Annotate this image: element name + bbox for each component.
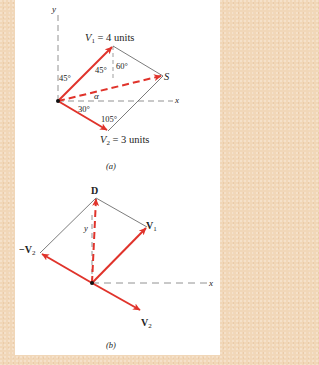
angle-45-from-y: 45°	[59, 73, 71, 83]
s-label: S	[164, 71, 170, 82]
v2-label-a: V2 = 3 units	[100, 134, 149, 147]
y-axis-label-b: y	[83, 223, 88, 233]
vector-s-resultant	[58, 76, 161, 101]
y-axis-label-a: y	[51, 4, 56, 14]
v1-label-a: V1 = 4 units	[85, 32, 134, 45]
neg-v2-label: −V2	[19, 244, 36, 257]
x-axis-label-a: x	[174, 95, 179, 105]
figure-a: y x V1 = 4 units V2 = 3 units S 45° 45° …	[51, 4, 179, 171]
angle-alpha: α	[94, 91, 99, 101]
origin-point-b	[90, 281, 94, 285]
angle-105: 105°	[101, 114, 117, 124]
v2-label-b: V2	[141, 317, 152, 330]
vector-v1-b	[92, 228, 146, 283]
figure-b: y x D V1 −V2 V2 (b)	[19, 185, 213, 350]
caption-a: (a)	[106, 161, 116, 171]
d-label: D	[91, 185, 98, 196]
x-axis-label-b: x	[208, 278, 213, 288]
vector-v2-b	[92, 283, 140, 310]
vector-neg-v2	[42, 254, 92, 283]
angle-60: 60°	[116, 61, 128, 71]
v1-label-b: V1	[146, 220, 157, 233]
parallelogram-b-right	[96, 198, 147, 227]
vector-d-difference	[92, 199, 96, 283]
angle-30: 30°	[78, 104, 90, 114]
vector-diagram: y x V1 = 4 units V2 = 3 units S 45° 45° …	[0, 0, 225, 365]
origin-point-a	[56, 99, 60, 103]
caption-b: (b)	[106, 340, 116, 350]
angle-45-inner: 45°	[95, 65, 107, 75]
